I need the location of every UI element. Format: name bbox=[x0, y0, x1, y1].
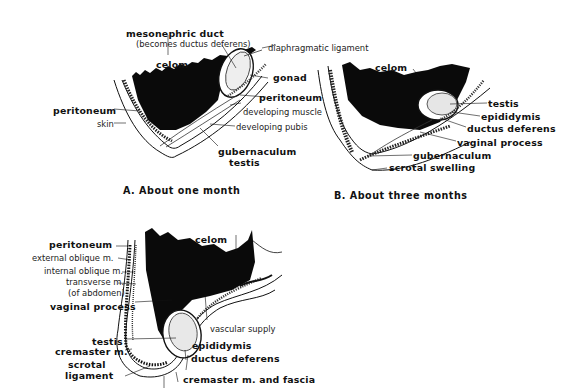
caption-panel-b: B. About three months bbox=[334, 191, 467, 201]
label-internal-oblique: internal oblique m. bbox=[44, 267, 123, 275]
label-testis-c: testis bbox=[92, 337, 123, 346]
panel-a-drawing bbox=[114, 35, 276, 157]
label-skin: skin bbox=[97, 120, 114, 128]
label-vascular-supply: vascular supply bbox=[210, 325, 276, 333]
label-of-abdomen: (of abdomen) bbox=[68, 289, 125, 297]
label-mesonephric-duct: mesonephric duct bbox=[126, 29, 224, 38]
label-vaginal-process-c: vaginal process bbox=[50, 302, 136, 311]
label-becomes-ductus-deferens: (becomes ductus deferens) bbox=[136, 40, 251, 48]
label-epididymis-b: epididymis bbox=[481, 112, 541, 121]
label-epididymis-c: epididymis bbox=[192, 341, 252, 350]
label-celom-a: celom bbox=[156, 60, 188, 69]
label-gonad: gonad bbox=[273, 73, 307, 82]
label-cremaster: cremaster m. bbox=[55, 347, 128, 356]
label-gubernaculum-a: gubernaculum bbox=[218, 147, 296, 156]
label-testis-b: testis bbox=[488, 99, 519, 108]
label-celom-b: celom bbox=[375, 63, 407, 72]
label-scrotal-swelling: scrotal swelling bbox=[389, 163, 475, 172]
panel-c-drawing bbox=[116, 228, 282, 388]
label-developing-pubis: developing pubis bbox=[236, 123, 308, 131]
label-peritoneum-a-left: peritoneum bbox=[53, 106, 116, 115]
label-external-oblique: external oblique m. bbox=[32, 254, 113, 262]
label-developing-muscle: developing muscle bbox=[243, 108, 322, 116]
label-diaphragmatic-ligament: diaphragmatic ligament bbox=[268, 44, 368, 52]
label-peritoneum-c: peritoneum bbox=[49, 240, 112, 249]
label-gubernaculum-b: gubernaculum bbox=[413, 151, 491, 160]
label-celom-c: celom bbox=[195, 235, 227, 244]
label-vaginal-process-b: vaginal process bbox=[457, 138, 543, 147]
caption-panel-a: A. About one month bbox=[123, 186, 240, 196]
label-ductus-deferens-c: ductus deferens bbox=[191, 354, 280, 363]
label-ductus-deferens-b: ductus deferens bbox=[467, 124, 556, 133]
diagram-artwork bbox=[0, 0, 577, 390]
label-cremaster-and-fascia: cremaster m. and fascia bbox=[183, 375, 315, 384]
label-peritoneum-a-right: peritoneum bbox=[259, 93, 322, 102]
label-scrotal: scrotal bbox=[68, 360, 106, 369]
label-testis-a: testis bbox=[229, 158, 260, 167]
label-transverse: transverse m. bbox=[66, 278, 124, 286]
label-ligament: ligament bbox=[65, 371, 113, 380]
